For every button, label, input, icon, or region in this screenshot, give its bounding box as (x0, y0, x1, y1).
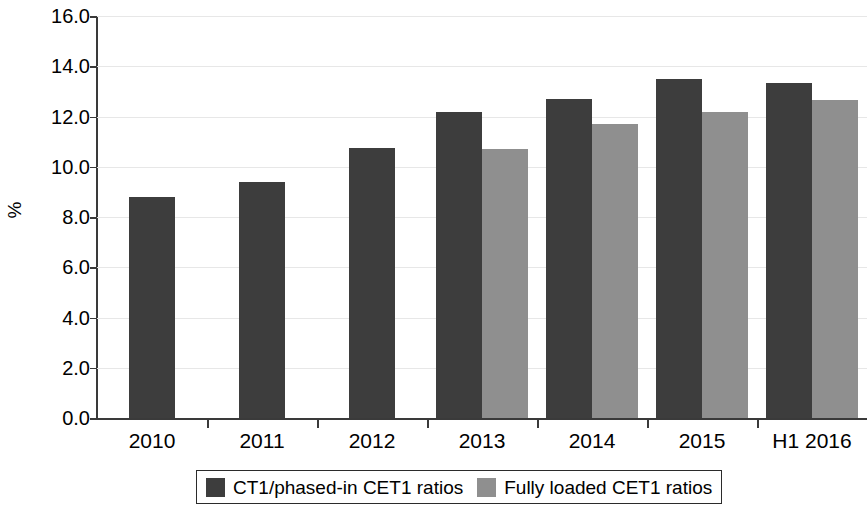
x-axis-tick-mark (537, 419, 539, 428)
x-axis-line (96, 418, 867, 420)
y-axis-title-text: % (4, 202, 26, 219)
x-axis-tick-mark (757, 419, 759, 428)
x-axis-tick-labels: 201020112012201320142015H1 2016 (97, 428, 868, 460)
legend-label: Fully loaded CET1 ratios (504, 478, 712, 497)
y-axis-tick-mark (90, 66, 97, 68)
legend-label: CT1/phased-in CET1 ratios (233, 478, 463, 497)
y-axis-tick-label: 14.0 (28, 56, 90, 76)
x-axis-tick-mark (427, 419, 429, 428)
gridline (97, 66, 867, 67)
y-axis-tick-mark (90, 368, 97, 370)
y-axis-tick-mark (90, 267, 97, 269)
bar (812, 100, 858, 418)
y-axis-tick-mark (90, 117, 97, 119)
bar (592, 124, 638, 418)
y-axis-tick-label: 16.0 (28, 6, 90, 26)
x-axis-tick-label: 2012 (317, 428, 427, 454)
x-axis-tick-mark (317, 419, 319, 428)
y-axis-tick-mark (90, 217, 97, 219)
bar (702, 112, 748, 419)
y-axis-tick-label: 12.0 (28, 107, 90, 127)
y-axis-tick-mark (90, 167, 97, 169)
legend-entry: Fully loaded CET1 ratios (477, 478, 712, 497)
gridline (97, 16, 867, 17)
bar (349, 148, 395, 418)
x-axis-tick-label: 2015 (647, 428, 757, 454)
x-axis-tick-label: 2014 (537, 428, 647, 454)
bar (482, 149, 528, 418)
chart-legend: CT1/phased-in CET1 ratiosFully loaded CE… (196, 470, 722, 504)
y-axis-tick-label: 0.0 (28, 408, 90, 428)
x-axis-tick-label: 2010 (97, 428, 207, 454)
x-axis-tick-label: H1 2016 (757, 428, 867, 454)
bar (129, 197, 175, 418)
y-axis-tick-mark (90, 318, 97, 320)
y-axis-title: % (2, 190, 28, 230)
y-axis-tick-label: 8.0 (28, 207, 90, 227)
bar (766, 83, 812, 418)
plot-area (97, 16, 867, 418)
y-axis-tick-label: 4.0 (28, 308, 90, 328)
x-axis-tick-label: 2013 (427, 428, 537, 454)
y-axis-tick-label: 2.0 (28, 358, 90, 378)
gridline (97, 117, 867, 118)
y-axis-tick-mark (90, 418, 97, 420)
bar (656, 79, 702, 418)
bar (436, 112, 482, 419)
x-axis-tick-label: 2011 (207, 428, 317, 454)
y-axis-tick-label: 10.0 (28, 157, 90, 177)
bar (546, 99, 592, 418)
legend-entry: CT1/phased-in CET1 ratios (206, 478, 463, 497)
x-axis-tick-mark (207, 419, 209, 428)
y-axis-tick-labels: 0.02.04.06.08.010.012.014.016.0 (28, 0, 90, 440)
bar (239, 182, 285, 418)
legend-swatch-icon (477, 478, 496, 497)
bar-chart: % 0.02.04.06.08.010.012.014.016.0 201020… (0, 0, 868, 508)
x-axis-tick-mark (647, 419, 649, 428)
legend-swatch-icon (206, 478, 225, 497)
y-axis-tick-label: 6.0 (28, 257, 90, 277)
y-axis-tick-mark (90, 16, 97, 18)
